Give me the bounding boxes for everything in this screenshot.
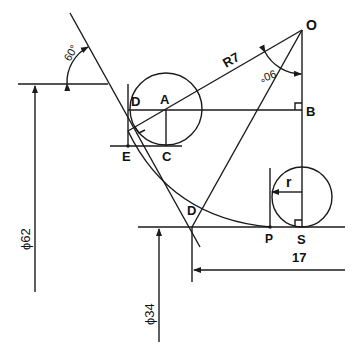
label-a: A — [160, 92, 170, 107]
label-o: O — [306, 17, 317, 33]
label-angle-90: 90° — [258, 68, 278, 85]
label-c: C — [162, 149, 172, 164]
label-p: P — [265, 232, 273, 246]
label-phi34: ϕ34 — [142, 303, 157, 325]
label-d-lower: D — [187, 203, 196, 218]
right-angle-mark-b — [295, 103, 302, 110]
geometry-diagram: O A B D E C D P S R7 r 60° 90° ϕ62 ϕ34 1… — [0, 0, 355, 351]
label-s: S — [297, 232, 306, 247]
point-e — [126, 144, 130, 148]
label-length-17: 17 — [292, 250, 306, 265]
slanted-tangent-line — [70, 13, 200, 247]
point-p — [268, 225, 272, 229]
label-phi62: ϕ62 — [18, 228, 33, 250]
label-r: r — [286, 174, 292, 190]
label-d-upper: D — [131, 94, 140, 109]
label-angle-60: 60° — [61, 43, 80, 63]
label-e: E — [122, 149, 131, 164]
line-od — [192, 30, 302, 227]
label-b: B — [306, 104, 315, 119]
